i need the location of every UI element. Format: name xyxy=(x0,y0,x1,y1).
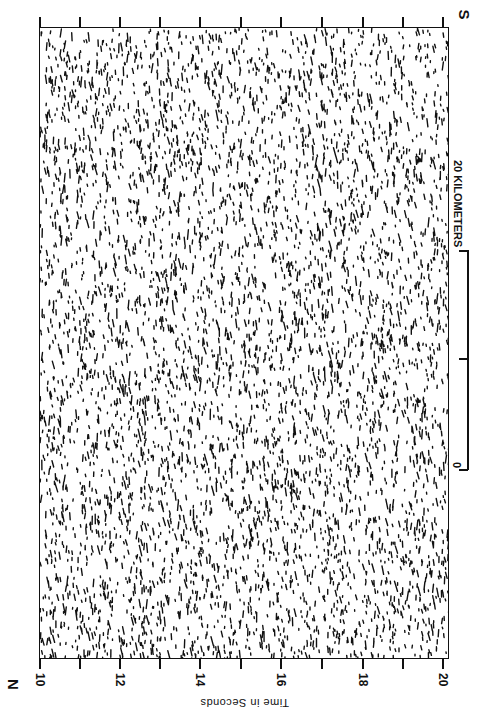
time-axis-tick-top xyxy=(362,17,364,27)
scale-bar-bottom-cap xyxy=(459,469,468,471)
south-end-label: S xyxy=(456,9,473,19)
time-axis-tick-top xyxy=(280,17,282,27)
plot-frame xyxy=(39,27,449,659)
time-axis-tick-bottom xyxy=(119,659,121,669)
scale-bar-mid-tick xyxy=(459,358,467,360)
north-end-label: N xyxy=(5,679,22,690)
seismic-stipple-texture xyxy=(40,28,449,659)
time-axis-tick-bottom xyxy=(199,659,201,669)
time-axis-tick-top xyxy=(159,17,161,27)
time-axis-tick-top xyxy=(39,17,41,27)
scale-bar-zero-label: 0 xyxy=(451,462,463,468)
time-axis-tick-bottom xyxy=(442,659,444,669)
time-axis-tick-bottom xyxy=(39,659,41,669)
time-axis-tick-bottom xyxy=(240,659,242,669)
time-axis-tick-label: 14 xyxy=(193,673,207,686)
time-axis-tick-label: 18 xyxy=(356,673,370,686)
scale-bar-top-cap xyxy=(459,250,468,252)
scale-bar-label: 20 KILOMETERS xyxy=(452,160,464,247)
time-axis-tick-label: 16 xyxy=(274,673,288,686)
time-axis-tick-bottom xyxy=(321,659,323,669)
scale-bar xyxy=(467,250,469,470)
seismic-section-figure: 101214161820 N S Time in Seconds 20 KILO… xyxy=(0,0,484,711)
time-axis-tick-top xyxy=(402,17,404,27)
time-axis-tick-bottom xyxy=(79,659,81,669)
time-axis-tick-top xyxy=(442,17,444,27)
time-axis-tick-label: 20 xyxy=(436,673,450,686)
time-axis-tick-top xyxy=(79,17,81,27)
time-axis-tick-bottom xyxy=(402,659,404,669)
time-axis-tick-top xyxy=(240,17,242,27)
time-axis-tick-label: 10 xyxy=(33,673,47,686)
time-axis-tick-top xyxy=(119,17,121,27)
time-axis-tick-bottom xyxy=(159,659,161,669)
time-axis-tick-top xyxy=(199,17,201,27)
time-axis-title: Time in Seconds xyxy=(200,697,289,709)
time-axis-tick-top xyxy=(321,17,323,27)
time-axis-tick-bottom xyxy=(362,659,364,669)
time-axis-tick-bottom xyxy=(280,659,282,669)
time-axis-tick-label: 12 xyxy=(113,673,127,686)
